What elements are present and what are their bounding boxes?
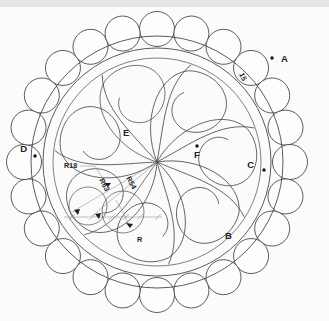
label-r: R [137,235,143,244]
ring-ball-17 [11,179,46,214]
r54-arrowhead [95,213,101,219]
ring-ball-0 [140,12,175,47]
r-arrowhead [126,223,133,228]
petal-1 [121,57,237,168]
drawing-canvas: A B C D E F 15 R18 R63 R54 R [0,0,329,321]
pinwheel-petals-group [46,57,264,274]
ring-ball-6 [273,145,308,180]
label-a: A [281,53,288,64]
label-b: B [225,230,232,241]
ring-ball-1 [174,16,209,51]
petal-spine-5 [157,146,244,233]
marker-point-a [270,56,273,59]
ring-ball-22 [73,29,108,64]
ring-ball-10 [206,260,241,295]
label-d: D [20,143,27,154]
label-r54: R54 [124,175,139,192]
label-f: F [194,149,200,160]
petal-spine-3 [125,65,222,162]
label-e: E [123,127,129,138]
petal-4 [108,159,208,274]
ring-ball-23 [105,16,140,51]
ring-ball-7 [268,179,303,214]
ring-ball-19 [11,110,46,145]
marker-point-d [33,154,36,157]
ring-ball-12 [140,278,175,313]
drawing-svg: A B C D E F 15 R18 R63 R54 R [0,0,329,321]
ring-ball-5 [268,110,303,145]
ring-ball-4 [255,78,290,113]
petal-3 [150,137,250,252]
construction-circle-left [69,187,107,225]
ring-ball-16 [24,211,59,246]
ring-ball-13 [105,273,140,308]
label-c: C [247,159,254,170]
ring-ball-11 [174,273,209,308]
petal-spine-2 [86,75,173,162]
technical-drawing: A B C D E F 15 R18 R63 R54 R [0,0,329,321]
marker-point-f [195,144,198,147]
label-r18: R18 [64,161,77,170]
marker-point-c [262,168,265,171]
